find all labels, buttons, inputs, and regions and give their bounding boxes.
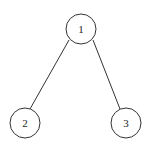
edge-1-3 — [93, 40, 120, 109]
node-3: 3 — [111, 108, 141, 138]
node-2: 2 — [10, 108, 40, 138]
node-2-label: 2 — [22, 117, 28, 129]
tree-diagram: 1 2 3 — [0, 0, 151, 150]
node-1-label: 1 — [78, 23, 84, 35]
node-3-label: 3 — [123, 117, 129, 129]
edge-1-2 — [30, 40, 69, 109]
edges — [30, 40, 120, 109]
node-1: 1 — [66, 14, 96, 44]
